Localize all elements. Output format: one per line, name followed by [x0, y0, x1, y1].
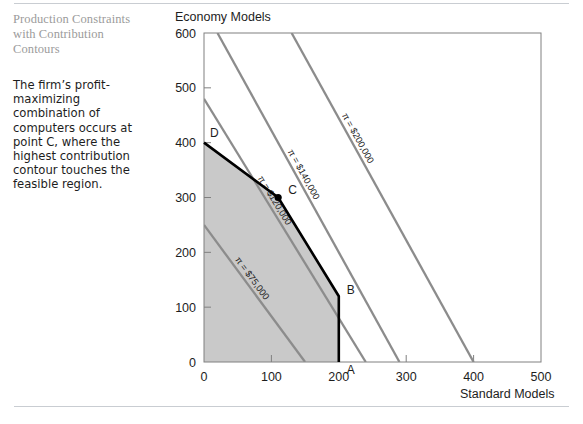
- caption-title: Production Constraints with Contribution…: [13, 12, 153, 57]
- y-tick-label: 300: [175, 191, 196, 205]
- x-tick-label: 300: [396, 370, 417, 384]
- contour-label-group: π = $200,000: [340, 111, 376, 165]
- x-tick-label: 0: [201, 370, 208, 384]
- top-divider-rule: [14, 3, 569, 4]
- vertex-marker-c: [275, 194, 282, 201]
- y-tick-label: 100: [175, 301, 196, 315]
- x-tick-label: 500: [531, 370, 552, 384]
- vertex-label-b: B: [347, 283, 355, 297]
- x-tick-label: 100: [261, 370, 282, 384]
- vertex-label-c: C: [288, 183, 297, 197]
- y-tick-label: 600: [175, 27, 196, 41]
- chart-container: Economy Models Standard Models 010020030…: [160, 6, 580, 401]
- chart-plot-area: 01002003004005006000100200300400500π = $…: [160, 6, 580, 401]
- y-tick-label: 200: [175, 246, 196, 260]
- vertex-label-d: D: [210, 126, 219, 140]
- caption-body: The firm’s profit-maximizing combination…: [13, 78, 149, 192]
- contour-label: π = $200,000: [340, 111, 376, 165]
- caption-column: Production Constraints with Contribution…: [13, 12, 153, 192]
- vertex-label-a: A: [347, 363, 355, 377]
- y-tick-label: 500: [175, 81, 196, 95]
- bottom-divider-rule: [14, 406, 569, 407]
- y-tick-label: 0: [189, 356, 196, 370]
- x-tick-label: 400: [463, 370, 484, 384]
- y-tick-label: 400: [175, 136, 196, 150]
